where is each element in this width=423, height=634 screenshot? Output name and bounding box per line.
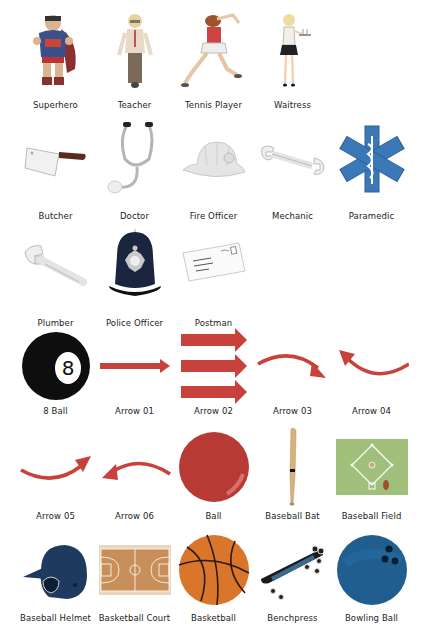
- baseball-field-icon: [332, 430, 411, 504]
- envelope-icon: [174, 232, 253, 292]
- fire-helmet-icon: [174, 125, 253, 195]
- eight-ball-icon: 8: [16, 326, 95, 406]
- tennis-player-figure-icon: [174, 10, 253, 92]
- item-label: Bowling Ball: [322, 613, 421, 623]
- arrow-triple-icon: [174, 326, 253, 406]
- item-label: Paramedic: [322, 211, 421, 221]
- superhero-figure-icon: [16, 10, 95, 92]
- arrow-curved-right-icon: [253, 326, 332, 406]
- item-label: Waitress: [243, 100, 342, 110]
- arrow-straight-icon: [95, 326, 174, 406]
- police-helmet-icon: [95, 224, 174, 300]
- baseball-helmet-icon: [16, 532, 95, 612]
- arrow-curved-up-right-icon: [16, 430, 95, 510]
- basketball-icon: [174, 530, 253, 610]
- arrow-curved-up-left-icon: [95, 430, 174, 510]
- arrow-curved-left-icon: [332, 326, 411, 406]
- stethoscope-icon: [95, 118, 174, 198]
- item-label: Arrow 04: [322, 406, 421, 416]
- item-label: Baseball Field: [322, 511, 421, 521]
- star-of-life-icon: [332, 121, 411, 197]
- ball-number: 8: [61, 356, 74, 380]
- adjustable-wrench-icon: [16, 232, 95, 300]
- bowling-ball-icon: [332, 530, 411, 610]
- waitress-figure-icon: [253, 10, 332, 92]
- ball-icon: [174, 426, 253, 508]
- teacher-figure-icon: [95, 10, 174, 92]
- skateboard-icon: [253, 532, 332, 608]
- wrench-icon: [253, 125, 332, 195]
- cleaver-icon: [16, 125, 95, 195]
- baseball-bat-icon: [253, 426, 332, 508]
- basketball-court-icon: [95, 540, 174, 600]
